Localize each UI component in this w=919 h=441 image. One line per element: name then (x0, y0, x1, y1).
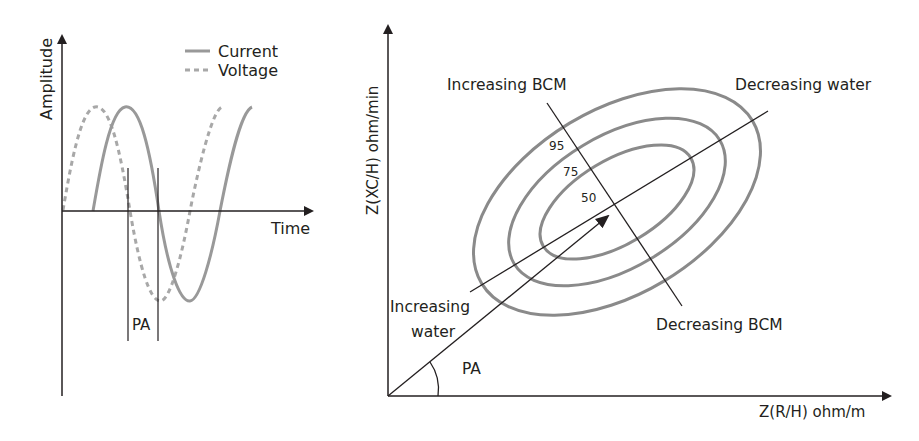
legend: Current Voltage (185, 42, 278, 80)
diagram-canvas: PA Amplitude Time Current Voltage (0, 0, 919, 441)
increasing-bcm-label: Increasing BCM (447, 76, 567, 94)
resistance-axis-label: Z(R/H) ohm/m (759, 403, 865, 421)
legend-voltage-label: Voltage (218, 61, 278, 80)
phase-angle-arc (430, 362, 438, 396)
decreasing-water-label: Decreasing water (735, 76, 872, 94)
legend-current-label: Current (218, 42, 278, 61)
voltage-curve (63, 107, 222, 301)
percentile-50-label: 50 (581, 191, 596, 205)
waveform-panel: PA Amplitude Time Current Voltage (37, 36, 312, 396)
reactance-axis-label: Z(XC/H) ohm/min (364, 86, 382, 215)
current-curve (93, 107, 252, 301)
water-axis-line (470, 111, 768, 292)
increasing-water-label-line2: water (411, 323, 456, 341)
phase-angle-label: PA (462, 360, 481, 378)
amplitude-label: Amplitude (37, 38, 56, 120)
increasing-water-label-line1: Increasing (390, 298, 470, 316)
pa-label-left: PA (132, 316, 151, 334)
percentile-95-label: 95 (549, 139, 564, 153)
bivariate-vector-panel: Z(XC/H) ohm/min Z(R/H) ohm/m Increasing … (364, 26, 890, 421)
percentile-75-label: 75 (563, 165, 578, 179)
decreasing-bcm-label: Decreasing BCM (656, 316, 783, 334)
time-label: Time (270, 219, 310, 238)
